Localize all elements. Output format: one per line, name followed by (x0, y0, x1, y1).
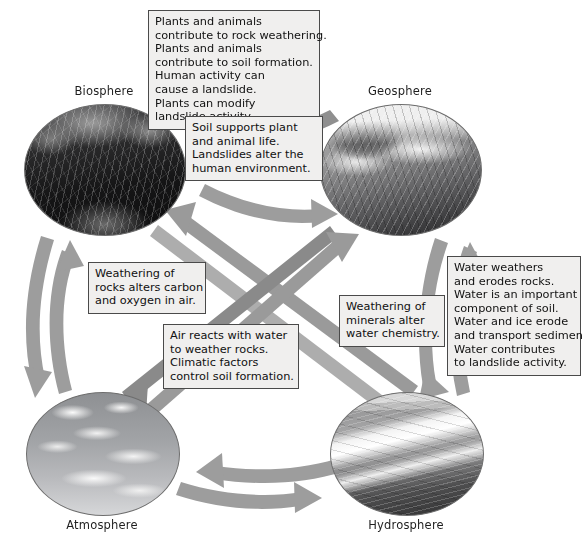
callout-line: minerals alter (346, 314, 438, 328)
callout-line: Weathering of (346, 300, 438, 314)
callout-line: cause a landslide. (155, 83, 313, 97)
callout-line: Human activity can (155, 69, 313, 83)
callout-line: Plants can modify (155, 97, 313, 111)
callout-line: and oxygen in air. (95, 294, 199, 308)
callout-line: Air reacts with water (170, 329, 292, 343)
arrow-biosphere-to-atmosphere (24, 236, 54, 398)
callout-line: water chemistry. (346, 327, 438, 341)
sphere-hydrosphere[interactable] (330, 392, 484, 516)
callout-line: Climatic factors (170, 356, 292, 370)
callout-line: Water weathers (454, 261, 574, 275)
sphere-atmosphere[interactable] (26, 392, 180, 516)
callout-geosphere-to-biosphere: Soil supports plant and animal life. Lan… (185, 116, 323, 181)
callout-line: contribute to soil formation. (155, 56, 313, 70)
sphere-label-atmosphere: Atmosphere (22, 518, 182, 532)
callout-line: human environment. (192, 162, 316, 176)
callout-line: contribute to rock weathering. (155, 29, 313, 43)
callout-atmosphere-to-geosphere: Air reacts with water to weather rocks. … (163, 324, 299, 389)
callout-line: Soil supports plant (192, 121, 316, 135)
callout-line: Plants and animals (155, 15, 313, 29)
callout-biosphere-to-geosphere: Plants and animals contribute to rock we… (148, 10, 320, 130)
callout-line: Water is an important (454, 288, 574, 302)
sphere-geosphere[interactable] (320, 104, 482, 236)
geosphere-photo (321, 105, 481, 235)
arrow-biosphere-to-geosphere (199, 184, 338, 228)
callout-line: and transport sediment. (454, 329, 574, 343)
callout-line: Plants and animals (155, 42, 313, 56)
callout-line: to weather rocks. (170, 343, 292, 357)
callout-line: to landslide activity. (454, 356, 574, 370)
callout-line: Water and ice erode (454, 315, 574, 329)
callout-line: Landslides alter the (192, 148, 316, 162)
callout-hydrosphere-to-geosphere: Water weathers and erodes rocks. Water i… (447, 256, 581, 376)
callout-line: and animal life. (192, 135, 316, 149)
sphere-label-hydrosphere: Hydrosphere (326, 518, 486, 532)
callout-line: Water contributes (454, 343, 574, 357)
arrow-hydrosphere-to-atmosphere (196, 453, 342, 488)
hydrosphere-photo (331, 393, 483, 515)
sphere-label-geosphere: Geosphere (320, 84, 480, 98)
callout-line: component of soil. (454, 302, 574, 316)
callout-line: and erodes rocks. (454, 275, 574, 289)
atmosphere-photo (27, 393, 179, 515)
callout-geosphere-to-atmosphere: Weathering of rocks alters carbon and ox… (88, 262, 206, 314)
callout-line: Weathering of (95, 267, 199, 281)
callout-line: control soil formation. (170, 370, 292, 384)
earth-systems-diagram: Biosphere Geosphere Atmosphere Hydrosphe… (0, 0, 582, 543)
arrow-atmosphere-to-hydrosphere (176, 482, 322, 513)
arrow-atmosphere-to-biosphere (50, 240, 84, 394)
callout-line: rocks alters carbon (95, 281, 199, 295)
callout-geosphere-to-hydrosphere: Weathering of minerals alter water chemi… (339, 295, 445, 347)
